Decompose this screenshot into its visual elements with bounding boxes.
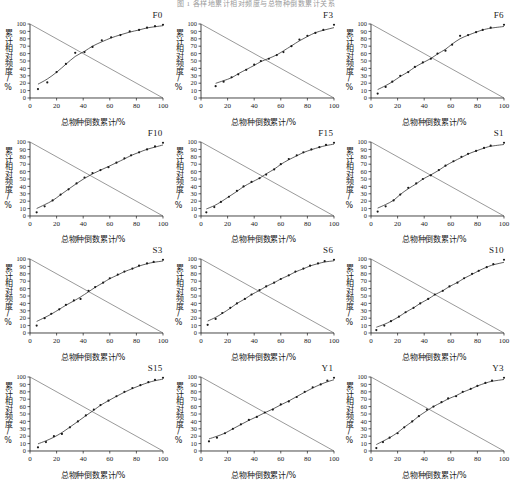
- fit-curve: [206, 144, 334, 209]
- data-point: [263, 411, 265, 413]
- data-point: [326, 380, 328, 382]
- x-tick-label: 60: [277, 102, 284, 110]
- y-tick-label: 20: [20, 79, 26, 86]
- y-tick-label: 20: [20, 432, 26, 439]
- y-tick-label: 70: [190, 160, 196, 167]
- x-tick-label: 100: [499, 337, 510, 345]
- data-point: [230, 76, 232, 78]
- y-tick-label: 70: [20, 42, 26, 49]
- x-tick-label: 0: [369, 455, 373, 463]
- y-tick-label: 50: [190, 57, 196, 64]
- data-point: [279, 278, 281, 280]
- data-point: [279, 403, 281, 405]
- reference-line: [30, 24, 163, 98]
- data-point: [434, 294, 436, 296]
- x-tick-label: 60: [277, 455, 284, 463]
- y-tick-label: 50: [361, 175, 367, 182]
- x-tick-label: 0: [28, 455, 32, 463]
- data-point: [453, 160, 455, 162]
- data-point: [385, 205, 387, 207]
- y-tick-label: 80: [20, 153, 26, 160]
- y-tick-label: 80: [190, 270, 196, 277]
- data-point: [399, 75, 401, 77]
- x-tick-label: 60: [106, 220, 113, 228]
- chart-panel: F6累计相对频度/%总物种倒数累计/%020406080100010203040…: [341, 10, 512, 128]
- data-point: [247, 419, 249, 421]
- y-tick-label: 70: [361, 160, 367, 167]
- data-point: [433, 406, 435, 408]
- y-tick-label: 50: [190, 175, 196, 182]
- plot-area: 0204060801000102030405060708090100: [341, 245, 512, 363]
- figure-caption: 图 1 各样地累计相对频度与总物种倒数累计关系: [0, 0, 512, 8]
- data-point: [267, 58, 269, 60]
- y-tick-label: 10: [20, 204, 26, 211]
- y-tick-label: 80: [361, 35, 367, 42]
- x-tick-label: 100: [499, 220, 510, 228]
- data-point: [221, 312, 223, 314]
- data-point: [52, 199, 54, 201]
- y-tick-label: 10: [190, 87, 196, 94]
- y-tick-label: 60: [190, 167, 196, 174]
- x-tick-label: 100: [499, 455, 510, 463]
- chart-panel: F3累计相对频度/%总物种倒数累计/%020406080100010203040…: [171, 10, 342, 128]
- y-tick-label: 40: [20, 65, 26, 72]
- data-point: [403, 426, 405, 428]
- reference-line: [30, 377, 163, 451]
- data-point: [91, 46, 93, 48]
- x-tick-label: 40: [250, 455, 257, 463]
- y-tick-label: 60: [361, 167, 367, 174]
- data-point: [213, 206, 215, 208]
- data-point: [102, 282, 104, 284]
- x-tick-label: 0: [199, 337, 203, 345]
- data-point: [427, 298, 429, 300]
- data-point: [154, 25, 156, 27]
- x-tick-label: 80: [133, 455, 140, 463]
- data-point: [385, 86, 387, 88]
- y-tick-label: 50: [20, 410, 26, 417]
- y-tick-label: 0: [193, 330, 196, 337]
- data-point: [426, 409, 428, 411]
- y-tick-label: 40: [190, 418, 196, 425]
- y-tick-label: 100: [16, 20, 26, 27]
- data-point: [44, 317, 46, 319]
- y-tick-label: 100: [187, 20, 197, 27]
- x-tick-label: 40: [421, 102, 428, 110]
- data-point: [154, 145, 156, 147]
- x-tick-label: 40: [80, 220, 87, 228]
- y-tick-label: 50: [190, 293, 196, 300]
- fit-curve: [37, 145, 163, 209]
- data-point: [138, 265, 140, 267]
- y-tick-label: 30: [190, 72, 196, 79]
- data-point: [457, 282, 459, 284]
- plot-area: 0204060801000102030405060708090100: [0, 363, 171, 481]
- data-point: [214, 85, 216, 87]
- data-point: [36, 325, 38, 327]
- plot-area: 0204060801000102030405060708090100: [341, 10, 512, 128]
- data-point: [295, 396, 297, 398]
- data-point: [287, 158, 289, 160]
- data-point: [250, 294, 252, 296]
- data-point: [250, 181, 252, 183]
- x-tick-label: 60: [447, 337, 454, 345]
- x-tick-label: 80: [474, 455, 481, 463]
- data-point: [162, 377, 164, 379]
- data-point: [295, 154, 297, 156]
- data-point: [146, 263, 148, 265]
- y-tick-label: 10: [361, 204, 367, 211]
- y-tick-label: 90: [20, 28, 26, 35]
- data-point: [215, 437, 217, 439]
- y-tick-label: 30: [20, 307, 26, 314]
- data-point: [430, 58, 432, 60]
- data-point: [91, 172, 93, 174]
- x-tick-label: 20: [53, 220, 60, 228]
- x-tick-label: 40: [80, 102, 87, 110]
- data-point: [131, 387, 133, 389]
- y-tick-label: 90: [361, 145, 367, 152]
- data-point: [302, 268, 304, 270]
- data-point: [422, 61, 424, 63]
- x-tick-label: 0: [199, 220, 203, 228]
- data-point: [413, 307, 415, 309]
- y-tick-label: 80: [361, 270, 367, 277]
- data-point: [56, 71, 58, 73]
- x-tick-label: 40: [80, 455, 87, 463]
